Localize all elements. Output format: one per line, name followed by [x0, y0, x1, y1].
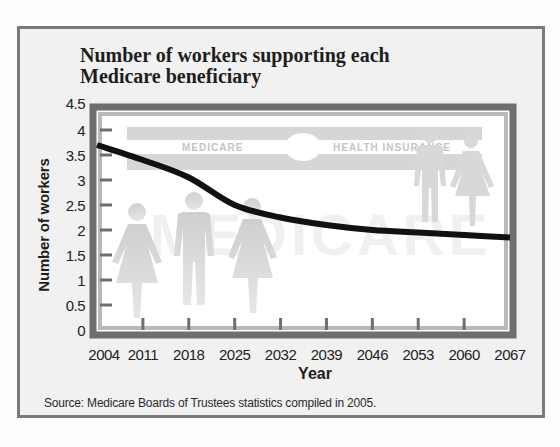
- plot-area: MEDICARE HEALTH INSURANCE MEDICARE: [0, 0, 560, 447]
- card-left-text: MEDICARE: [182, 142, 243, 153]
